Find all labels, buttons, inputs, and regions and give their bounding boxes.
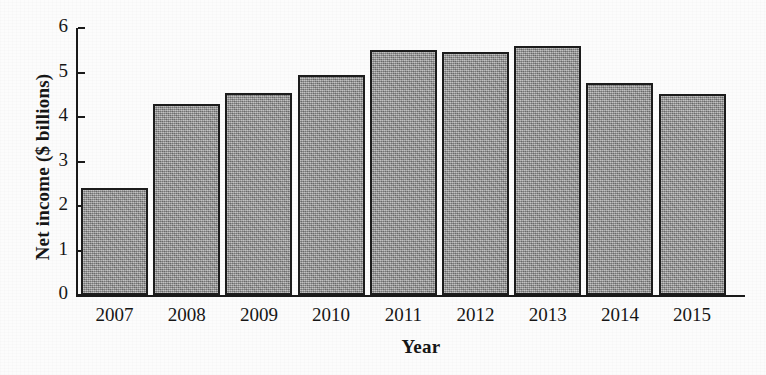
y-axis-tick-mark [78, 27, 85, 29]
x-axis-title: Year [0, 336, 766, 358]
y-axis-tick-label: 2 [48, 194, 68, 214]
y-axis-tick-label: 0 [48, 283, 68, 303]
bar [370, 50, 437, 295]
bar [298, 75, 365, 295]
bar [153, 104, 220, 295]
y-axis-tick-label: 1 [48, 239, 68, 259]
y-axis-tick: 3 [76, 161, 85, 163]
x-axis-tick-label: 2015 [659, 304, 726, 326]
x-axis-tick-label: 2007 [81, 304, 148, 326]
x-axis-tick-label: 2011 [370, 304, 437, 326]
x-axis-title-text: Year [401, 336, 440, 358]
plot-area: 0123456 20072008200920102011201220132014… [76, 28, 745, 295]
bar [81, 188, 148, 295]
y-axis-tick-mark [78, 116, 85, 118]
bar [586, 83, 653, 295]
x-axis-tick-label: 2013 [514, 304, 581, 326]
y-axis-tick-label: 4 [48, 105, 68, 125]
x-axis-tick-label: 2010 [298, 304, 365, 326]
y-axis-tick-mark [78, 72, 85, 74]
bar [225, 93, 292, 295]
y-axis-tick-label: 6 [48, 16, 68, 36]
bar [514, 46, 581, 295]
y-axis-tick-label: 3 [48, 150, 68, 170]
y-axis-tick: 6 [76, 27, 85, 29]
x-axis-line [76, 295, 745, 297]
x-axis-tick-label: 2009 [225, 304, 292, 326]
x-axis-tick-label: 2014 [586, 304, 653, 326]
y-axis-tick: 5 [76, 72, 85, 74]
x-axis-tick-label: 2012 [442, 304, 509, 326]
y-axis-tick-mark [78, 161, 85, 163]
x-axis-tick-label: 2008 [153, 304, 220, 326]
bar [442, 52, 509, 295]
bar-chart: Net income ($ billions) 0123456 20072008… [0, 0, 766, 375]
y-axis-tick: 4 [76, 116, 85, 118]
bar [659, 94, 726, 295]
y-axis-tick-label: 5 [48, 61, 68, 81]
